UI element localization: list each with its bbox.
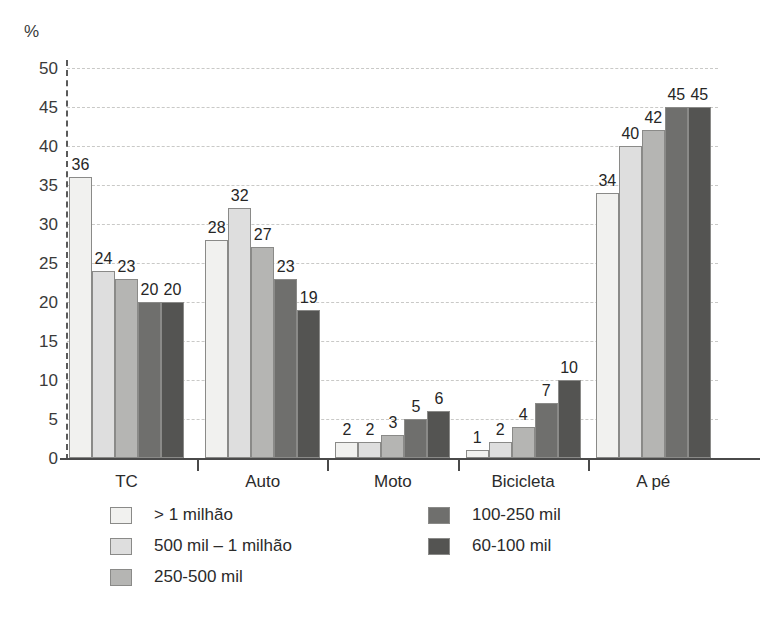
bar-value-label: 10 [550, 360, 589, 376]
x-axis-group-tick [197, 458, 199, 471]
x-axis-group-tick [588, 458, 590, 471]
y-axis-tick-label: 20 [18, 294, 58, 311]
y-axis-unit-label: % [24, 22, 39, 42]
bar-value-label: 23 [107, 259, 146, 275]
legend-item[interactable]: > 1 milhão [110, 503, 233, 527]
bar-group-a-pé: 3440424545 [596, 68, 711, 458]
bar [427, 411, 450, 458]
bar-value-label: 23 [266, 259, 305, 275]
legend-item[interactable]: 500 mil – 1 milhão [110, 534, 292, 558]
bar [642, 130, 665, 458]
y-axis-tick-label: 50 [18, 60, 58, 77]
legend-label: 100-250 mil [472, 505, 561, 525]
x-axis-category-label: A pé [593, 472, 713, 492]
bar [404, 419, 427, 458]
bar [665, 107, 688, 458]
x-axis-category-label: TC [67, 472, 187, 492]
y-axis-line [66, 60, 68, 460]
bar [381, 435, 404, 458]
bar-value-label: 27 [243, 227, 282, 243]
legend-swatch [428, 538, 450, 555]
y-axis-tick-label: 5 [18, 411, 58, 428]
bar [92, 271, 115, 458]
y-axis-tick-label: 40 [18, 138, 58, 155]
bar [297, 310, 320, 458]
chart-legend: > 1 milhão500 mil – 1 milhão250-500 mil1… [110, 503, 670, 598]
bar-group-auto: 2832272319 [205, 68, 320, 458]
legend-swatch [110, 538, 132, 555]
x-axis-category-label: Moto [333, 472, 453, 492]
bar [489, 442, 512, 458]
bar [596, 193, 619, 458]
legend-swatch [110, 507, 132, 524]
bar-group-bicicleta: 124710 [466, 68, 581, 458]
bar-group-tc: 3624232020 [69, 68, 184, 458]
legend-swatch [110, 569, 132, 586]
bar [161, 302, 184, 458]
legend-swatch [428, 507, 450, 524]
bar [335, 442, 358, 458]
legend-label: 60-100 mil [472, 536, 551, 556]
y-axis-tick-label: 10 [18, 372, 58, 389]
bar [688, 107, 711, 458]
bar-value-label: 45 [680, 87, 719, 103]
bar [558, 380, 581, 458]
bar [251, 247, 274, 458]
bar-value-label: 6 [419, 391, 458, 407]
bar-value-label: 32 [220, 188, 259, 204]
bar [619, 146, 642, 458]
y-axis-tick-label: 15 [18, 333, 58, 350]
bar [228, 208, 251, 458]
legend-item[interactable]: 250-500 mil [110, 565, 243, 589]
x-axis-line [60, 458, 760, 460]
bar-value-label: 36 [61, 157, 100, 173]
y-axis-tick-label: 35 [18, 177, 58, 194]
y-axis-tick-label: 30 [18, 216, 58, 233]
x-axis-category-label: Auto [203, 472, 323, 492]
bar [115, 279, 138, 458]
y-axis-tick-label: 45 [18, 99, 58, 116]
bar [535, 403, 558, 458]
bar-value-label: 19 [289, 290, 328, 306]
bar-group-moto: 22356 [335, 68, 450, 458]
x-axis-category-label: Bicicleta [463, 472, 583, 492]
y-axis-tick-label: 25 [18, 255, 58, 272]
bar-value-label: 20 [153, 282, 192, 298]
y-axis-tick-label: 0 [18, 450, 58, 467]
bar-chart: % 05101520253035404550 36242320202832272… [0, 0, 761, 625]
legend-label: > 1 milhão [154, 505, 233, 525]
legend-item[interactable]: 100-250 mil [428, 503, 561, 527]
bar [69, 177, 92, 458]
x-axis-group-tick [458, 458, 460, 471]
bar [138, 302, 161, 458]
x-axis-group-tick [327, 458, 329, 471]
bar [512, 427, 535, 458]
legend-item[interactable]: 60-100 mil [428, 534, 551, 558]
legend-label: 250-500 mil [154, 567, 243, 587]
bar [358, 442, 381, 458]
bar [205, 240, 228, 458]
bar [466, 450, 489, 458]
legend-label: 500 mil – 1 milhão [154, 536, 292, 556]
